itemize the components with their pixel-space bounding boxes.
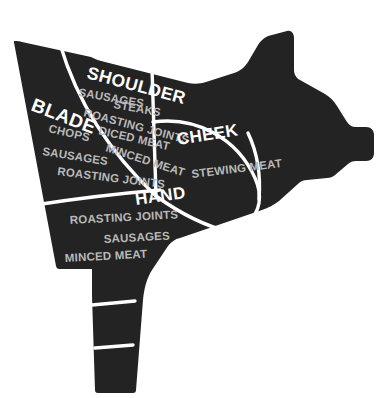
pig-outline-path — [14, 31, 374, 393]
butcher-cuts-diagram: BLADE CHOPS SAUSAGES ROASTING JOINTS SHO… — [0, 0, 387, 398]
pig-body-shape — [14, 31, 374, 393]
pig-silhouette-svg: BLADE CHOPS SAUSAGES ROASTING JOINTS SHO… — [0, 0, 387, 398]
